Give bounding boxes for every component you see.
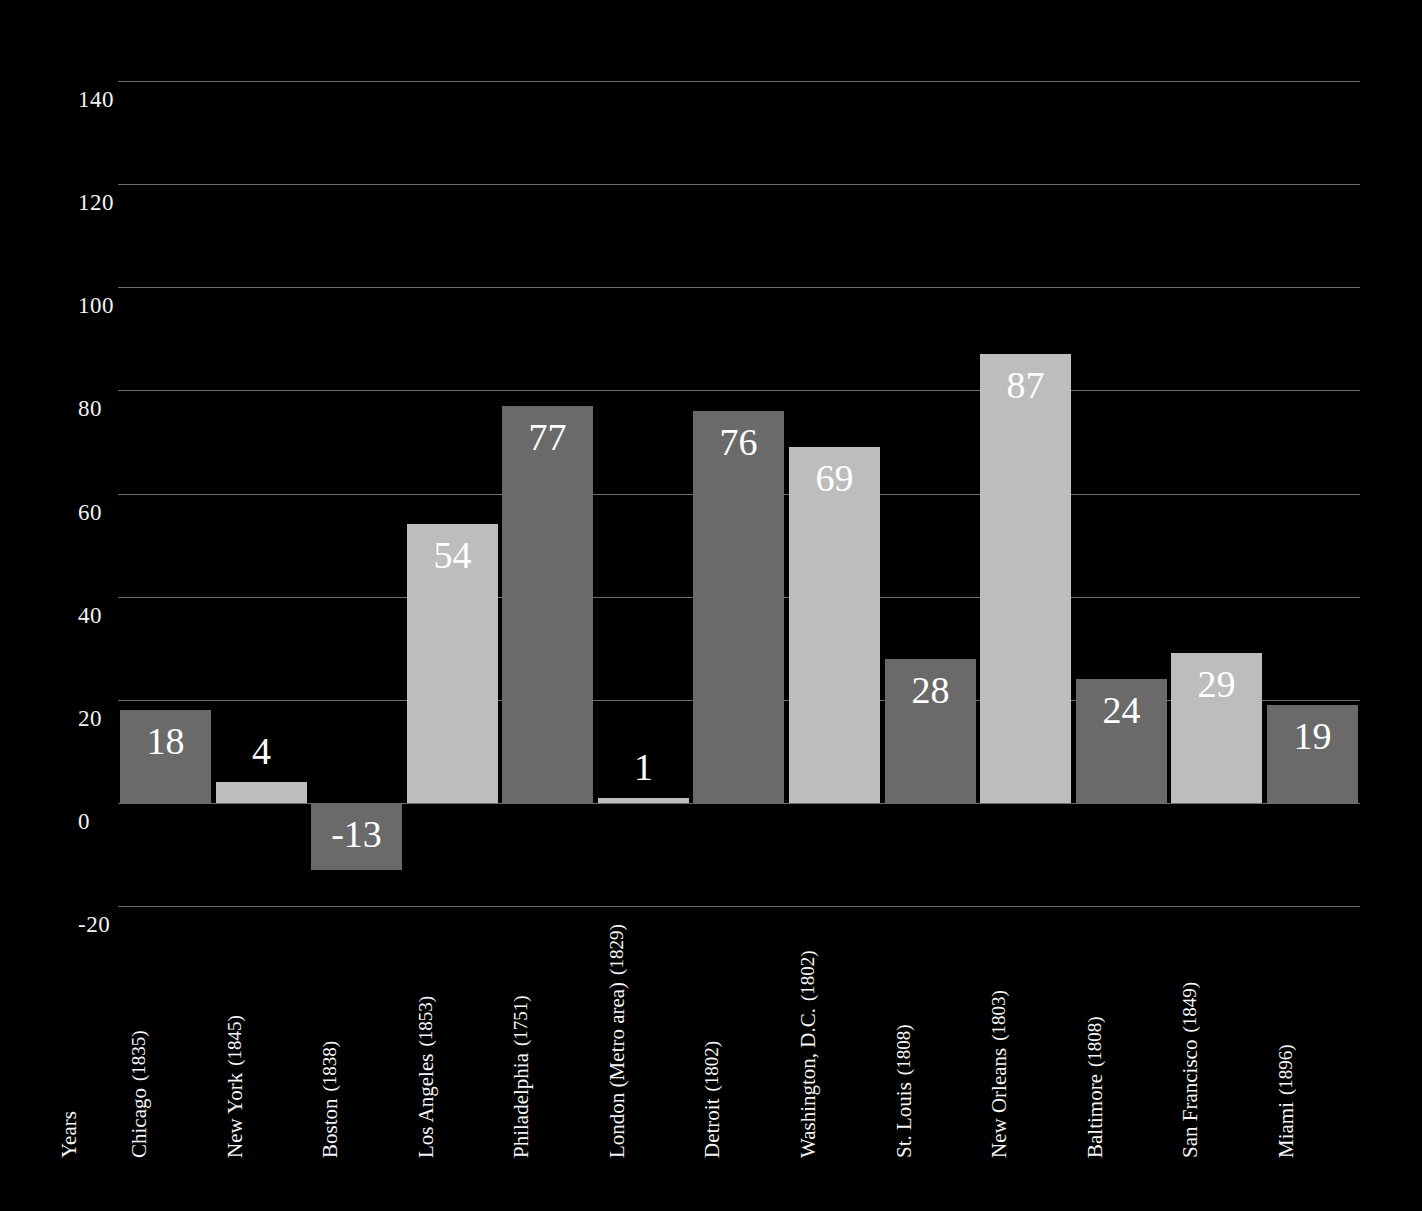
y-axis-tick-label: 120 bbox=[78, 191, 114, 214]
x-axis-label: (1896)Miami bbox=[1276, 1044, 1297, 1158]
x-axis-label-year: (1838) bbox=[320, 1041, 339, 1092]
bar-value-label: 28 bbox=[885, 671, 976, 709]
bar-value-label: 4 bbox=[216, 732, 307, 770]
y-axis-tick-label: 60 bbox=[78, 501, 102, 524]
x-axis-label-city: Philadelphia bbox=[511, 1053, 532, 1158]
x-axis-label-city: St. Louis bbox=[894, 1082, 915, 1158]
x-axis-label: (1838)Boston bbox=[320, 1041, 341, 1158]
x-axis-label-year: (1853) bbox=[416, 996, 435, 1047]
x-axis-label: (1849)San Francisco bbox=[1180, 982, 1201, 1158]
bar-value-label: 76 bbox=[693, 423, 784, 461]
y-axis-tick-label: 40 bbox=[78, 604, 102, 627]
x-axis-label-city: Baltimore bbox=[1085, 1074, 1106, 1158]
x-axis-label-year: (1802) bbox=[702, 1041, 721, 1092]
y-axis-tick-label: 100 bbox=[78, 294, 114, 317]
x-axis-label: (1853)Los Angeles bbox=[416, 996, 437, 1158]
bars-layer: 184-135477176692887242919 bbox=[118, 81, 1360, 906]
x-axis-label-city: New Orleans bbox=[989, 1048, 1010, 1158]
x-axis-label: (1751)Philadelphia bbox=[511, 995, 532, 1158]
bar-value-label: 1 bbox=[598, 748, 689, 786]
x-axis-label-city: San Francisco bbox=[1180, 1040, 1201, 1158]
x-axis-label: (1803)New Orleans bbox=[989, 990, 1010, 1158]
x-axis-labels-layer: Years (1835)Chicago(1845)New York(1838)B… bbox=[0, 930, 1422, 1180]
x-axis-title: Years bbox=[59, 1111, 80, 1158]
bar-value-label: 24 bbox=[1076, 691, 1167, 729]
x-axis-label-year: (1803) bbox=[989, 990, 1008, 1041]
x-axis-label-city: Los Angeles bbox=[416, 1054, 437, 1158]
y-axis-tick-label: 140 bbox=[78, 88, 114, 111]
x-axis-label-city: Detroit bbox=[702, 1099, 723, 1158]
bar-value-label: 69 bbox=[789, 459, 880, 497]
x-axis-label: (1802)Detroit bbox=[702, 1041, 723, 1158]
y-axis-tick-label: 0 bbox=[78, 810, 90, 833]
x-axis-label-year: (1835) bbox=[129, 1030, 148, 1081]
x-axis-label: (1845)New York bbox=[225, 1015, 246, 1158]
x-axis-label-year: (1845) bbox=[225, 1015, 244, 1066]
bar-value-label: 29 bbox=[1171, 665, 1262, 703]
x-axis-label-city: London (Metro area) bbox=[607, 982, 628, 1158]
x-axis-label-city: Miami bbox=[1276, 1102, 1297, 1158]
x-axis-label-city: New York bbox=[225, 1073, 246, 1158]
x-axis-label-city: Chicago bbox=[129, 1088, 150, 1158]
y-axis-tick-label: 80 bbox=[78, 397, 102, 420]
x-axis-label: (1808)St. Louis bbox=[894, 1024, 915, 1158]
bar-value-label: 54 bbox=[407, 536, 498, 574]
bar-value-label: 77 bbox=[502, 418, 593, 456]
bar-value-label: -13 bbox=[311, 815, 402, 853]
x-axis-label-year: (1808) bbox=[894, 1024, 913, 1075]
x-axis-label-year: (1829) bbox=[607, 924, 626, 975]
x-axis-label-year: (1896) bbox=[1276, 1044, 1295, 1095]
bar[interactable] bbox=[693, 411, 784, 803]
bar-value-label: 19 bbox=[1267, 717, 1358, 755]
bar-value-label: 18 bbox=[120, 722, 211, 760]
bar[interactable] bbox=[789, 447, 880, 803]
x-axis-label: (1835)Chicago bbox=[129, 1030, 150, 1158]
x-axis-label: (1829)London (Metro area) bbox=[607, 924, 628, 1158]
x-axis-label-city: Boston bbox=[320, 1098, 341, 1158]
x-axis-label: (1808)Baltimore bbox=[1085, 1016, 1106, 1158]
x-axis-label-city: Washington, D.C. bbox=[798, 1008, 819, 1158]
bar[interactable] bbox=[216, 782, 307, 803]
bar-chart: 140120100806040200-20 184-13547717669288… bbox=[0, 0, 1422, 1211]
x-axis-label-year: (1849) bbox=[1180, 982, 1199, 1033]
x-axis-label-year: (1802) bbox=[798, 950, 817, 1001]
x-axis-label: (1802)Washington, D.C. bbox=[798, 950, 819, 1158]
bar-value-label: 87 bbox=[980, 366, 1071, 404]
bar[interactable] bbox=[980, 354, 1071, 803]
gridline bbox=[118, 906, 1360, 907]
x-axis-label-year: (1751) bbox=[511, 995, 530, 1046]
y-axis-tick-label: 20 bbox=[78, 707, 102, 730]
x-axis-label-year: (1808) bbox=[1085, 1016, 1104, 1067]
bar[interactable] bbox=[598, 798, 689, 803]
bar[interactable] bbox=[502, 406, 593, 803]
